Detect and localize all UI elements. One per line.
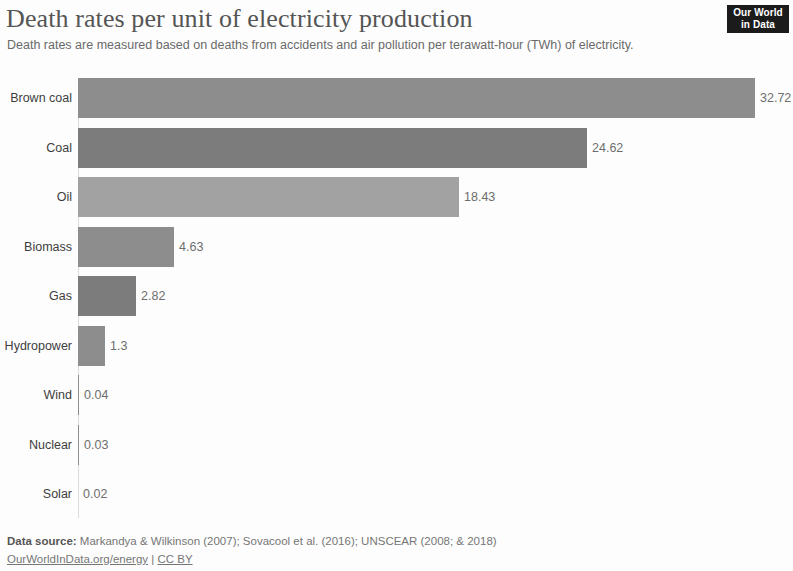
bar-value-label: 0.04 bbox=[84, 375, 108, 415]
logo-line-2: in Data bbox=[741, 19, 775, 31]
bar-value-label: 4.63 bbox=[179, 227, 203, 267]
bar-category-label: Oil bbox=[0, 177, 72, 217]
bar-chart-plot-area: Brown coal32.72Coal24.62Oil18.43Biomass4… bbox=[0, 62, 793, 517]
bar[interactable] bbox=[78, 425, 79, 465]
bar[interactable] bbox=[78, 375, 79, 415]
bar-category-label: Coal bbox=[0, 128, 72, 168]
cc-by-link[interactable]: CC BY bbox=[157, 553, 192, 565]
bar-value-label: 0.03 bbox=[84, 425, 108, 465]
chart-subtitle: Death rates are measured based on deaths… bbox=[7, 37, 633, 53]
bar[interactable] bbox=[78, 177, 459, 217]
owid-energy-link[interactable]: OurWorldInData.org/energy bbox=[7, 553, 148, 565]
our-world-in-data-logo[interactable]: Our World in Data bbox=[727, 5, 789, 33]
bar-row: Solar0.02 bbox=[0, 474, 793, 514]
bar-value-label: 2.82 bbox=[141, 276, 165, 316]
footer-links: OurWorldInData.org/energy | CC BY bbox=[7, 551, 193, 567]
bar[interactable] bbox=[78, 276, 136, 316]
data-source-line: Data source: Markandya & Wilkinson (2007… bbox=[7, 533, 787, 550]
bar-category-label: Brown coal bbox=[0, 78, 72, 118]
logo-line-1: Our World bbox=[733, 7, 783, 19]
bar-value-label: 1.3 bbox=[110, 326, 127, 366]
bar-category-label: Biomass bbox=[0, 227, 72, 267]
bar[interactable] bbox=[78, 128, 587, 168]
bar-row: Wind0.04 bbox=[0, 375, 793, 415]
bar-row: Nuclear0.03 bbox=[0, 425, 793, 465]
bar-category-label: Gas bbox=[0, 276, 72, 316]
bar-category-label: Wind bbox=[0, 375, 72, 415]
bar[interactable] bbox=[78, 326, 105, 366]
page-title: Death rates per unit of electricity prod… bbox=[6, 4, 473, 34]
bar-category-label: Nuclear bbox=[0, 425, 72, 465]
bar-row: Oil18.43 bbox=[0, 177, 793, 217]
bar[interactable] bbox=[78, 227, 174, 267]
bar-row: Gas2.82 bbox=[0, 276, 793, 316]
bar-row: Biomass4.63 bbox=[0, 227, 793, 267]
data-source-text: Markandya & Wilkinson (2007); Sovacool e… bbox=[77, 535, 497, 547]
bar-value-label: 24.62 bbox=[592, 128, 623, 168]
bar-category-label: Hydropower bbox=[0, 326, 72, 366]
bar-row: Hydropower1.3 bbox=[0, 326, 793, 366]
bar-value-label: 0.02 bbox=[83, 474, 107, 514]
bar-value-label: 18.43 bbox=[464, 177, 495, 217]
bar-category-label: Solar bbox=[0, 474, 72, 514]
bar[interactable] bbox=[78, 78, 755, 118]
data-source-label: Data source: bbox=[7, 535, 77, 547]
chart-page: Death rates per unit of electricity prod… bbox=[0, 0, 793, 571]
bar-row: Brown coal32.72 bbox=[0, 78, 793, 118]
bar-value-label: 32.72 bbox=[760, 78, 791, 118]
bar-row: Coal24.62 bbox=[0, 128, 793, 168]
